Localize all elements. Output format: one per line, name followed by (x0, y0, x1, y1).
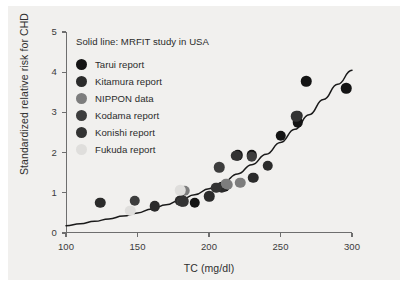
legend-annotation: Solid line: MRFIT study in USA (76, 36, 226, 47)
data-point (149, 201, 160, 212)
legend-marker-icon (76, 76, 87, 87)
legend-marker-icon (76, 59, 87, 70)
data-point (247, 151, 258, 162)
legend-item: Kitamura report (76, 73, 226, 90)
data-point (175, 185, 186, 196)
legend-item: Konishi report (76, 124, 226, 141)
legend: Solid line: MRFIT study in USA Tarui rep… (76, 36, 226, 158)
x-tick-label: 150 (121, 241, 155, 252)
data-point (178, 196, 189, 207)
data-point (125, 206, 136, 217)
legend-marker-icon (76, 93, 87, 104)
data-point (189, 198, 200, 209)
data-point (235, 178, 246, 189)
legend-marker-icon (76, 110, 87, 121)
data-point (262, 161, 273, 172)
x-tick-label: 100 (49, 241, 83, 252)
scatter-chart: 012345 100150200250300 Standardized rela… (0, 0, 408, 292)
legend-item: Kodama report (76, 107, 226, 124)
x-axis-title: TC (mg/dl) (66, 262, 352, 274)
data-point (129, 196, 140, 207)
x-tick-label: 200 (192, 241, 226, 252)
data-point (248, 173, 259, 184)
x-tick-mark (137, 233, 138, 237)
data-point (341, 83, 352, 94)
y-tick-label: 5 (39, 26, 57, 37)
legend-item-label: Kitamura report (95, 76, 162, 87)
x-tick-mark (208, 233, 209, 237)
legend-item: Fukuda report (76, 141, 226, 158)
data-point (301, 76, 312, 87)
legend-item-label: NIPPON data (95, 93, 154, 104)
legend-item: NIPPON data (76, 90, 226, 107)
data-point (222, 180, 233, 191)
x-tick-label: 300 (335, 241, 369, 252)
legend-items: Tarui reportKitamura reportNIPPON dataKo… (76, 56, 226, 158)
figure-root: 012345 100150200250300 Standardized rela… (0, 0, 408, 292)
data-point (214, 162, 225, 173)
data-point (211, 183, 222, 194)
legend-item-label: Kodama report (95, 110, 159, 121)
y-axis-title: Standardized relative risk for CHD (18, 0, 30, 194)
x-tick-mark (351, 233, 352, 237)
y-tick-label: 0 (39, 227, 57, 238)
legend-item-label: Fukuda report (95, 144, 155, 155)
x-tick-mark (280, 233, 281, 237)
x-tick-mark (65, 233, 66, 237)
legend-marker-icon (76, 144, 87, 155)
legend-marker-icon (76, 127, 87, 138)
y-tick-label: 3 (39, 106, 57, 117)
data-point (95, 198, 106, 209)
data-point (275, 130, 286, 141)
legend-item: Tarui report (76, 56, 226, 73)
y-tick-label: 1 (39, 187, 57, 198)
data-point (291, 111, 302, 122)
legend-item-label: Tarui report (95, 59, 144, 70)
y-tick-label: 2 (39, 147, 57, 158)
data-point (231, 151, 242, 162)
legend-item-label: Konishi report (95, 127, 155, 138)
x-tick-label: 250 (264, 241, 298, 252)
y-tick-label: 4 (39, 66, 57, 77)
